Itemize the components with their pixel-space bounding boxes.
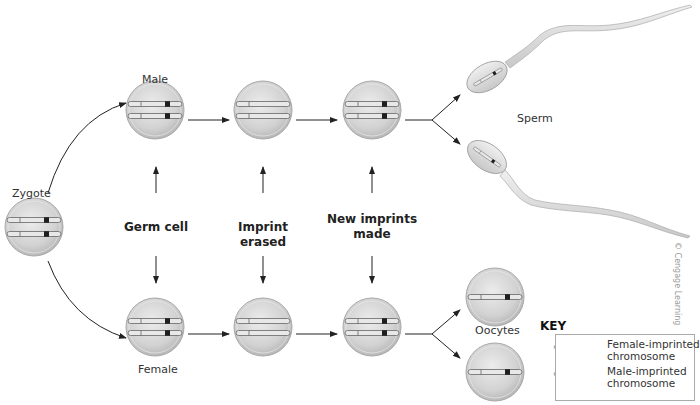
stage-new-imprints-line1: New imprints	[320, 212, 424, 227]
zygote-cell	[5, 198, 63, 256]
arrow-to-oocyte-1	[432, 310, 460, 334]
key-title: KEY	[540, 319, 566, 333]
oocyte-upper	[466, 268, 524, 326]
sperm-upper	[461, 5, 692, 99]
stage-new-imprints-label: New imprints made	[320, 212, 424, 242]
female-new-imprint-cell	[343, 298, 401, 356]
stage-new-imprints-line2: made	[320, 227, 424, 242]
arrow-to-sperm-2	[432, 120, 460, 144]
oocyte-lower	[466, 343, 524, 401]
male-germ-cell	[126, 81, 184, 139]
sperm-lower	[462, 134, 690, 238]
female-erased-cell	[234, 298, 292, 356]
oocytes-label: Oocytes	[475, 324, 520, 337]
male-erased-cell	[234, 81, 292, 139]
key-item-male-imprinted: Male-imprinted chromosome	[607, 365, 687, 389]
arrow-zygote-to-male	[48, 103, 126, 193]
arrow-to-oocyte-2	[432, 334, 460, 358]
zygote-label: Zygote	[12, 187, 51, 200]
female-germ-cell	[126, 298, 184, 356]
male-new-imprint-cell	[343, 81, 401, 139]
arrow-zygote-to-female	[48, 261, 126, 338]
arrow-to-sperm-1	[432, 95, 460, 120]
male-label: Male	[142, 73, 168, 86]
stage-imprint-erased-label: Imprint erased	[213, 220, 313, 250]
key-item-female-imprinted: Female-imprinted chromosome	[607, 338, 700, 362]
sperm-label: Sperm	[517, 112, 553, 125]
copyright-credit: © Cengage Learning	[673, 242, 682, 325]
stage-germ-cell-label: Germ cell	[120, 220, 192, 235]
female-label: Female	[138, 363, 178, 376]
